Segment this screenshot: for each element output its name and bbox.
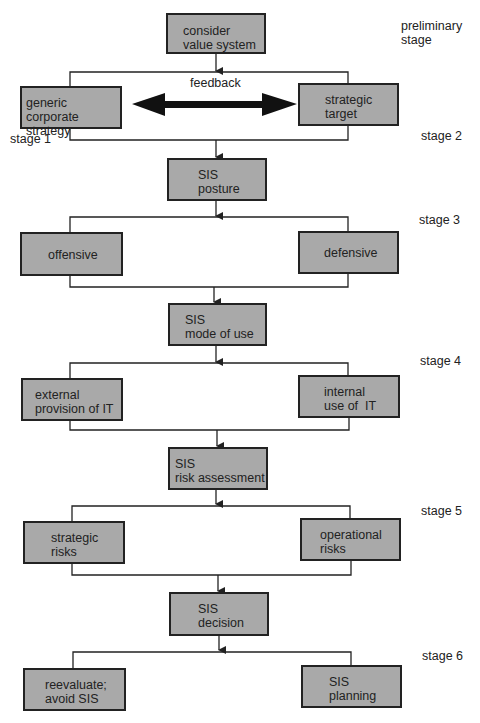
node-text: strategic	[325, 93, 397, 107]
node-operational-risks: operational risks	[300, 518, 401, 561]
node-defensive: defensive	[298, 231, 399, 274]
node-text: SIS	[175, 457, 266, 471]
node-text: avoid SIS	[45, 692, 124, 706]
node-text: use of IT	[324, 399, 398, 413]
stage-4-label: stage 4	[420, 354, 461, 368]
node-text: strategic	[51, 531, 123, 545]
node-text: provision of IT	[35, 402, 121, 416]
node-text: consider	[183, 24, 264, 38]
stage-2-label: stage 2	[421, 129, 462, 143]
node-text: risks	[320, 542, 399, 556]
node-internal-use-of-it: internal use of IT	[298, 375, 400, 418]
node-text: SIS	[198, 168, 265, 182]
node-text: generic corporate	[26, 96, 120, 124]
node-text: SIS	[329, 675, 400, 689]
node-text: operational	[320, 528, 399, 542]
node-strategic-risks: strategic risks	[23, 521, 125, 564]
node-generic-corporate-strategy: generic corporate strategy	[20, 86, 122, 129]
node-sis-planning: SIS planning	[301, 665, 402, 708]
node-text: risks	[51, 545, 123, 559]
node-sis-decision: SIS decision	[169, 592, 269, 636]
stage-preliminary-label: preliminary stage	[401, 19, 462, 47]
node-sis-risk-assessment: SIS risk assessment	[168, 447, 268, 490]
node-text: external	[35, 388, 121, 402]
stage-3-label: stage 3	[419, 213, 460, 227]
node-text: value system	[183, 38, 264, 52]
node-sis-mode-of-use: SIS mode of use	[168, 303, 267, 346]
node-offensive: offensive	[20, 232, 123, 276]
node-text: planning	[329, 689, 400, 703]
node-text: defensive	[324, 246, 397, 260]
node-text: SIS	[185, 313, 265, 327]
node-text: internal	[324, 385, 398, 399]
feedback-label: feedback	[190, 76, 241, 90]
node-strategic-target: strategic target	[298, 83, 399, 126]
node-text: SIS	[198, 602, 267, 616]
node-text: reevaluate;	[45, 678, 124, 692]
node-text: posture	[198, 182, 265, 196]
stage-text: stage	[401, 33, 462, 47]
node-consider-value-system: consider value system	[166, 13, 266, 54]
feedback-double-arrow	[132, 93, 297, 116]
node-text: decision	[198, 616, 267, 630]
stage-1-label: stage 1	[10, 132, 51, 146]
node-sis-posture: SIS posture	[167, 158, 267, 201]
stage-5-label: stage 5	[421, 504, 462, 518]
node-text: target	[325, 107, 397, 121]
stage-text: preliminary	[401, 19, 462, 33]
stage-6-label: stage 6	[422, 649, 463, 663]
node-text: risk assessment	[175, 471, 266, 485]
node-reevaluate-avoid-sis: reevaluate; avoid SIS	[23, 668, 126, 711]
node-external-provision-of-it: external provision of IT	[21, 378, 123, 421]
node-text: mode of use	[185, 327, 265, 341]
node-text: offensive	[48, 248, 121, 262]
